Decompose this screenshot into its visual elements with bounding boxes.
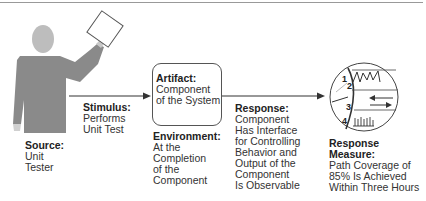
test-sheet-icon: [87, 11, 123, 47]
response-measure-label: Response Measure: Path Coverage of 85% I…: [329, 138, 419, 193]
svg-text:2: 2: [347, 81, 352, 91]
stimulus-arrow-icon: [69, 93, 151, 100]
response-line: Is Observable: [235, 180, 300, 191]
response-measure-line: Within Three Hours: [329, 182, 419, 193]
svg-text:3: 3: [346, 102, 351, 112]
stimulus-label: Stimulus: Performs Unit Test: [83, 102, 131, 135]
svg-text:4: 4: [342, 116, 347, 126]
environment-label: Environment: At the Completion of the Co…: [153, 131, 221, 186]
artifact-label: Artifact: Component of the System: [156, 73, 220, 106]
stimulus-line: Unit Test: [83, 124, 131, 135]
environment-line: Component: [153, 175, 221, 186]
source-label: Source: Unit Tester: [25, 140, 64, 173]
source-line: Tester: [25, 162, 64, 173]
artifact-line: of the System: [156, 95, 220, 106]
response-measure-dial-icon: 1 2 3 4: [330, 63, 398, 131]
response-arrow-icon: [221, 93, 325, 100]
response-label: Response: Component Has Interface for Co…: [235, 103, 300, 191]
